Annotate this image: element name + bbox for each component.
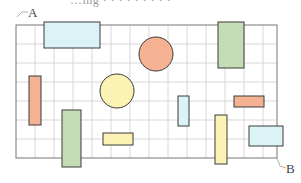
label-a-leader xyxy=(17,12,28,17)
orange-small-rect xyxy=(234,96,264,107)
yellow-circle xyxy=(100,74,134,108)
blue-wide-rect-top xyxy=(44,22,100,48)
blue-narrow-rect xyxy=(178,96,189,126)
orange-tall-rect xyxy=(29,76,41,125)
label-b-leader xyxy=(277,158,286,168)
blue-rect-bottom-right xyxy=(249,126,283,146)
orange-circle xyxy=(139,37,173,71)
yellow-tall-rect xyxy=(215,115,227,164)
green-tall-rect xyxy=(62,110,81,167)
green-rect-top xyxy=(218,22,244,68)
yellow-small-rect xyxy=(103,133,133,145)
diagram-canvas xyxy=(0,0,301,183)
